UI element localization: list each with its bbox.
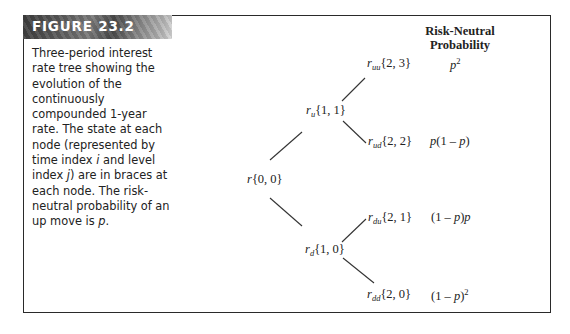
prob-du: (1 – p)p: [431, 210, 471, 225]
node-dd: rdd{2, 0}: [367, 287, 411, 303]
node-root: r{0, 0}: [247, 172, 283, 188]
tree-edges: [0, 0, 570, 334]
figure-label: FIGURE 23.2: [32, 18, 135, 34]
edge-d-du: [342, 219, 366, 242]
edge-d-dd: [343, 258, 374, 283]
prob-dd: (1 – p)2: [431, 287, 469, 304]
prob-ud: p(1 – p): [430, 134, 470, 149]
node-d: rd{1, 0}: [305, 242, 345, 258]
node-u: ru{1, 1}: [306, 103, 346, 119]
node-ud: rud{2, 2}: [368, 134, 412, 150]
node-du: rdu{2, 1}: [368, 210, 412, 226]
edge-u-ud: [343, 121, 366, 143]
node-uu: ruu{2, 3}: [367, 56, 411, 72]
edge-root-d: [270, 198, 302, 226]
prob-uu: p2: [450, 56, 461, 73]
edge-u-uu: [342, 78, 365, 101]
edge-root-u: [270, 132, 302, 160]
